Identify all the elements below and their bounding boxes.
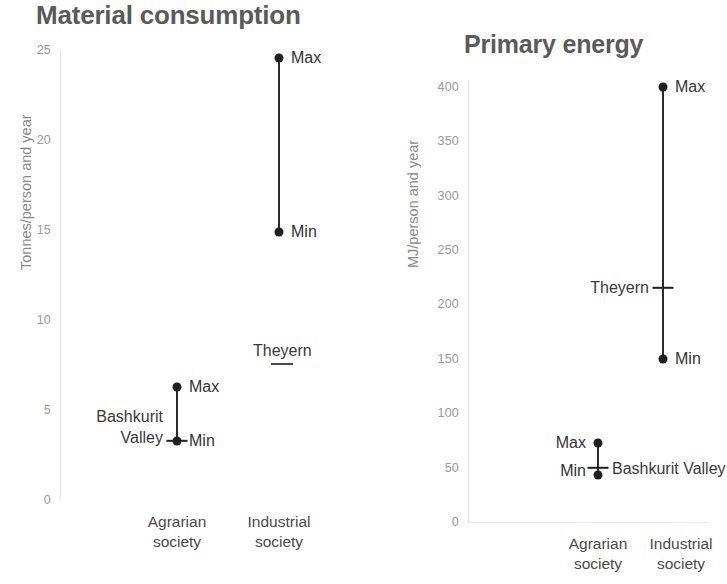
y-tick-label-0: 0 (44, 493, 51, 507)
category-label-industrial-society: Industrial society (248, 512, 311, 552)
range-stem (278, 58, 280, 232)
category-label-line-1: Industrial (650, 535, 713, 552)
min-label-agrarian: Min (189, 432, 215, 450)
category-label-line-2: society (153, 533, 201, 550)
category-label-line-2: society (255, 533, 303, 550)
chart-title-primary-energy: Primary energy (464, 30, 643, 59)
series-label-bashkurit-valley-material: Bashkurit Valley (96, 407, 163, 449)
y-tick-label-150: 150 (438, 352, 459, 366)
series-label-underline (271, 363, 293, 365)
category-label-agrarian-society: Agrarian society (569, 534, 628, 574)
y-tick-label-0: 0 (452, 515, 459, 529)
marker-crossbar-agrarian (588, 466, 609, 468)
max-label-industrial: Max (291, 49, 321, 67)
category-label-line-1: Industrial (248, 513, 311, 530)
series-label-theyern-material: Theyern (253, 342, 312, 365)
y-tick-label-100: 100 (438, 406, 459, 420)
y-tick-label-5: 5 (44, 403, 51, 417)
max-label-agrarian: Max (189, 378, 219, 396)
category-label-agrarian-society: Agrarian society (148, 512, 207, 552)
min-point-industrial (275, 228, 284, 237)
series-label-line-2: Valley (121, 429, 163, 446)
chart-panel-material-consumption: Material consumption Tonnes/person and y… (0, 0, 380, 584)
min-point-agrarian (594, 471, 603, 480)
max-point-industrial (275, 54, 284, 63)
chart-panel-primary-energy: Primary energy MJ/person and year 0 50 1… (380, 0, 727, 584)
y-axis-line (60, 50, 61, 500)
y-axis-title-material-consumption: Tonnes/person and year (18, 114, 34, 270)
min-label-agrarian: Min (560, 462, 586, 480)
category-label-line-1: Agrarian (148, 513, 207, 530)
range-stem (176, 387, 178, 441)
max-label-industrial: Max (675, 78, 705, 96)
y-axis-line (468, 80, 469, 522)
series-label-line-1: Bashkurit (96, 408, 163, 425)
y-tick-label-25: 25 (37, 43, 51, 57)
max-point-industrial (659, 83, 668, 92)
max-point-agrarian (173, 382, 182, 391)
marker-crossbar-industrial (653, 287, 674, 289)
y-tick-label-20: 20 (37, 133, 51, 147)
min-crossbar-agrarian (167, 439, 188, 441)
y-tick-label-200: 200 (438, 297, 459, 311)
max-label-agrarian: Max (556, 434, 586, 452)
category-label-line-2: society (574, 555, 622, 572)
y-tick-label-250: 250 (438, 243, 459, 257)
min-label-industrial: Min (291, 223, 317, 241)
category-label-line-2: society (657, 555, 705, 572)
min-point-industrial (659, 354, 668, 363)
series-label-theyern-energy: Theyern (590, 279, 649, 297)
max-point-agrarian (594, 438, 603, 447)
min-label-industrial: Min (675, 350, 701, 368)
y-axis-title-primary-energy: MJ/person and year (405, 140, 421, 268)
y-tick-label-300: 300 (438, 189, 459, 203)
y-tick-label-15: 15 (37, 223, 51, 237)
series-label-text: Theyern (253, 342, 312, 359)
y-tick-label-400: 400 (438, 80, 459, 94)
y-tick-label-50: 50 (445, 461, 459, 475)
plot-area-material-consumption: 0 5 10 15 20 25 Max Min Bashkurit Valley… (60, 50, 360, 500)
category-label-industrial-society: Industrial society (650, 534, 713, 574)
chart-title-material-consumption: Material consumption (36, 0, 301, 31)
y-tick-label-350: 350 (438, 134, 459, 148)
category-label-line-1: Agrarian (569, 535, 628, 552)
y-tick-label-10: 10 (37, 313, 51, 327)
plot-area-primary-energy: 0 50 100 150 200 250 300 350 400 Max Min… (468, 80, 708, 522)
x-axis-line (468, 522, 708, 523)
series-label-bashkurit-valley-energy: Bashkurit Valley (612, 460, 726, 478)
range-stem (662, 87, 664, 359)
